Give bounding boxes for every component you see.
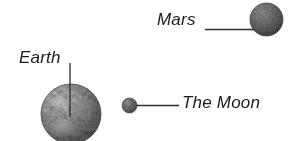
moon-label: The Moon	[182, 94, 260, 111]
earth-body	[41, 84, 101, 141]
mars-body	[248, 1, 285, 38]
astronomy-scale-figure: Mars Earth The Moon	[0, 0, 297, 141]
mars-label: Mars	[157, 11, 196, 28]
moon-body	[121, 97, 139, 115]
earth-label: Earth	[19, 49, 61, 66]
figure-canvas	[0, 0, 297, 141]
